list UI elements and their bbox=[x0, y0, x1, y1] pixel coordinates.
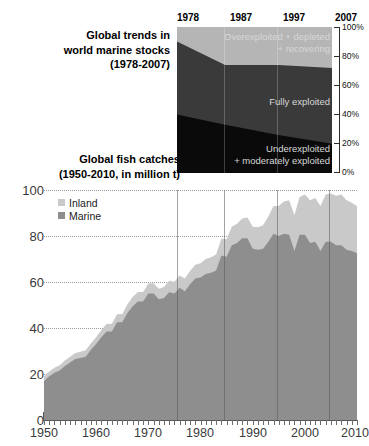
x-minor-tick bbox=[201, 420, 202, 425]
x-minor-tick bbox=[122, 420, 123, 425]
x-minor-tick bbox=[49, 420, 50, 425]
bottom-chart-title: Global fish catches (1950-2010, in milli… bbox=[20, 152, 180, 181]
top-chart-title-line3: (1978-2007) bbox=[20, 57, 170, 72]
percent-label-0: 0% bbox=[342, 167, 354, 177]
percent-axis bbox=[334, 27, 340, 173]
percent-tick-80 bbox=[334, 56, 340, 57]
bottom-gridline-1987 bbox=[224, 190, 225, 420]
top-chart-title-line2: world marine stocks bbox=[20, 43, 170, 58]
x-minor-tick bbox=[326, 420, 327, 425]
band-label-overexploited-line2: + recovering bbox=[190, 43, 330, 55]
x-minor-tick bbox=[232, 420, 233, 425]
bottom-x-label-1980: 1980 bbox=[186, 426, 214, 440]
x-minor-tick bbox=[117, 420, 118, 425]
x-minor-tick bbox=[347, 420, 348, 425]
x-minor-tick bbox=[310, 420, 311, 425]
percent-tick-0 bbox=[334, 172, 340, 173]
bottom-x-label-1990: 1990 bbox=[239, 426, 267, 440]
percent-label-60: 60% bbox=[342, 80, 359, 90]
x-minor-tick bbox=[315, 420, 316, 425]
bottom-gridline-1997 bbox=[277, 190, 278, 420]
legend-item-marine: Marine bbox=[58, 209, 101, 222]
x-minor-tick bbox=[305, 420, 306, 425]
bottom-y-label-80: 80 bbox=[30, 229, 44, 244]
x-minor-tick bbox=[154, 420, 155, 425]
x-minor-tick bbox=[159, 420, 160, 425]
x-minor-tick bbox=[174, 420, 175, 425]
x-minor-tick bbox=[164, 420, 165, 425]
x-minor-tick bbox=[70, 420, 71, 425]
band-label-overexploited-line1: Overexploited + depleted bbox=[190, 31, 330, 43]
top-x-label-1997: 1997 bbox=[283, 12, 305, 23]
percent-tick-60 bbox=[334, 85, 340, 86]
x-minor-tick bbox=[294, 420, 295, 425]
x-minor-tick bbox=[44, 420, 45, 425]
x-minor-tick bbox=[195, 420, 196, 425]
percent-tick-40 bbox=[334, 114, 340, 115]
x-minor-tick bbox=[289, 420, 290, 425]
x-minor-tick bbox=[169, 420, 170, 425]
legend-label-inland: Inland bbox=[69, 197, 98, 209]
fish-catches-legend: Inland Marine bbox=[58, 196, 101, 222]
x-minor-tick bbox=[148, 420, 149, 425]
x-minor-tick bbox=[300, 420, 301, 425]
x-minor-tick bbox=[320, 420, 321, 425]
bottom-y-label-20: 20 bbox=[30, 367, 44, 382]
x-minor-tick bbox=[127, 420, 128, 425]
x-minor-tick bbox=[190, 420, 191, 425]
bottom-y-label-100: 100 bbox=[22, 183, 44, 198]
x-minor-tick bbox=[101, 420, 102, 425]
x-minor-tick bbox=[279, 420, 280, 425]
percent-label-80: 80% bbox=[342, 51, 359, 61]
x-minor-tick bbox=[258, 420, 259, 425]
x-minor-tick bbox=[75, 420, 76, 425]
bottom-y-label-60: 60 bbox=[30, 275, 44, 290]
x-minor-tick bbox=[242, 420, 243, 425]
bottom-x-label-1950: 1950 bbox=[30, 426, 58, 440]
legend-label-marine: Marine bbox=[69, 210, 101, 222]
x-minor-tick bbox=[227, 420, 228, 425]
x-minor-tick bbox=[180, 420, 181, 425]
x-minor-tick bbox=[138, 420, 139, 425]
top-x-label-1978: 1978 bbox=[177, 12, 199, 23]
percent-label-40: 40% bbox=[342, 109, 359, 119]
bottom-x-label-2010: 2010 bbox=[341, 426, 369, 440]
percent-tick-20 bbox=[334, 143, 340, 144]
legend-swatch-inland bbox=[58, 199, 65, 206]
bottom-gridline-2007 bbox=[329, 190, 330, 420]
band-label-fully-exploited: Fully exploited bbox=[190, 96, 330, 108]
legend-swatch-marine bbox=[58, 212, 65, 219]
top-x-label-1987: 1987 bbox=[230, 12, 252, 23]
percent-tick-100 bbox=[334, 27, 340, 28]
x-minor-tick bbox=[352, 420, 353, 425]
x-minor-tick bbox=[211, 420, 212, 425]
x-minor-tick bbox=[86, 420, 87, 425]
percent-label-100: 100% bbox=[342, 22, 364, 32]
band-label-underexploited-line2: + moderately exploited bbox=[190, 155, 330, 167]
bottom-x-label-2000: 2000 bbox=[291, 426, 319, 440]
x-minor-tick bbox=[253, 420, 254, 425]
x-minor-tick bbox=[221, 420, 222, 425]
bottom-chart-title-line1: Global fish catches bbox=[20, 152, 180, 167]
bottom-y-label-40: 40 bbox=[30, 321, 44, 336]
x-minor-tick bbox=[336, 420, 337, 425]
x-minor-tick bbox=[206, 420, 207, 425]
x-minor-tick bbox=[96, 420, 97, 425]
x-minor-tick bbox=[91, 420, 92, 425]
area-marine bbox=[44, 234, 357, 420]
fish-catches-area-chart bbox=[44, 190, 357, 420]
x-minor-tick bbox=[237, 420, 238, 425]
bottom-x-label-1970: 1970 bbox=[134, 426, 162, 440]
x-minor-tick bbox=[263, 420, 264, 425]
x-minor-tick bbox=[107, 420, 108, 425]
bottom-chart-title-line2: (1950-2010, in million t) bbox=[20, 167, 180, 182]
x-minor-tick bbox=[133, 420, 134, 425]
percent-label-20: 20% bbox=[342, 138, 359, 148]
x-minor-tick bbox=[60, 420, 61, 425]
x-minor-tick bbox=[331, 420, 332, 425]
x-minor-tick bbox=[54, 420, 55, 425]
top-chart-x-axis: 1978 1987 1997 2007 bbox=[0, 12, 368, 26]
x-minor-tick bbox=[247, 420, 248, 425]
x-minor-tick bbox=[112, 420, 113, 425]
